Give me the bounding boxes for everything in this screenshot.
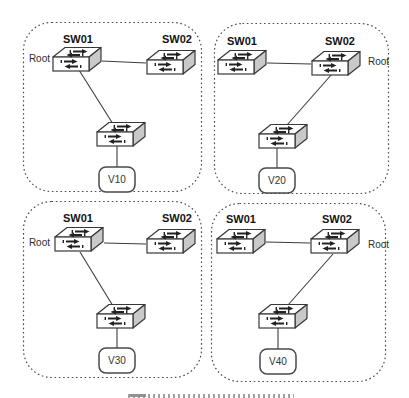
trunk-link (104, 243, 146, 244)
vlan-label: V20 (268, 175, 286, 186)
trunk-link (267, 63, 311, 64)
trunk-link (102, 61, 146, 63)
vlan-label: V40 (269, 356, 287, 367)
figure-canvas: SW01 SW02 Root V10 SW01 SW02 Root V20 SW… (0, 0, 409, 398)
switch-icon-sw02 (312, 52, 360, 76)
topology-panel-vlan10: SW01 SW02 Root V10 (22, 21, 203, 193)
switch-icon-access (97, 123, 145, 147)
switch-icon-access (259, 305, 307, 329)
sw01-label: SW01 (226, 213, 256, 225)
switch-icon-sw02 (311, 230, 359, 254)
vlan-label: V10 (108, 174, 126, 185)
root-label: Root (29, 237, 50, 248)
downlink (80, 252, 113, 306)
downlink (288, 254, 333, 305)
sw01-label: SW01 (63, 33, 93, 45)
cropped-caption (128, 394, 294, 398)
sw02-label: SW02 (162, 212, 192, 224)
root-label: Root (368, 56, 389, 67)
downlink (287, 74, 332, 125)
switch-icon-sw02 (147, 51, 195, 75)
sw01-label: SW01 (63, 212, 93, 224)
switch-icon-access (259, 125, 307, 149)
switch-icon-sw01 (53, 48, 101, 72)
sw02-label: SW02 (322, 213, 352, 225)
switch-icon-sw01 (218, 51, 266, 75)
trunk-link (266, 242, 310, 243)
sw02-label: SW02 (325, 35, 355, 47)
root-label: Root (368, 239, 389, 250)
sw01-label: SW01 (227, 35, 257, 47)
switch-icon-sw01 (217, 230, 265, 254)
topology-panel-vlan40: SW01 SW02 Root V40 (210, 202, 387, 383)
topology-panel-vlan30: SW01 SW02 Root V30 (22, 200, 203, 379)
switch-icon-access (97, 305, 145, 329)
switch-icon-sw02 (147, 230, 195, 254)
vlan-label: V30 (108, 355, 126, 366)
downlink (79, 70, 113, 124)
topology-panel-vlan20: SW01 SW02 Root V20 (213, 22, 390, 195)
switch-icon-sw01 (55, 228, 103, 252)
sw02-label: SW02 (162, 33, 192, 45)
panel-border (24, 23, 202, 192)
root-label: Root (29, 53, 50, 64)
